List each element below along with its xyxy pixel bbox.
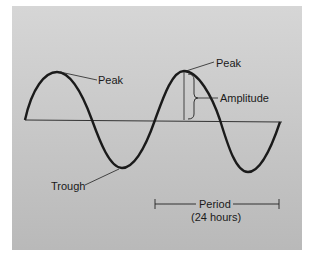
- peak-right-leader: [186, 62, 214, 71]
- trough-label: Trough: [51, 180, 85, 192]
- wave-diagram: [0, 0, 312, 265]
- period-label: Period: [199, 198, 231, 210]
- amplitude-label: Amplitude: [220, 92, 269, 104]
- amplitude-brace: [188, 74, 198, 119]
- trough-leader: [85, 169, 119, 185]
- peak-left-label: Peak: [98, 74, 123, 86]
- period-value-label: (24 hours): [191, 211, 241, 223]
- peak-right-label: Peak: [216, 57, 241, 69]
